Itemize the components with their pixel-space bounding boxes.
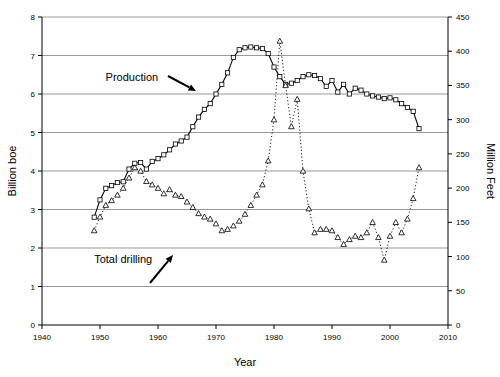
data-point-marker: [110, 184, 114, 188]
data-point-marker: [104, 186, 108, 190]
data-point-marker: [197, 115, 201, 119]
data-point-marker: [342, 82, 346, 86]
data-point-marker: [295, 78, 299, 82]
y-axis-right-tick-label: 400: [456, 47, 470, 56]
x-axis-tick-label: 1960: [149, 333, 167, 342]
x-axis-tick-label: 1990: [323, 333, 341, 342]
y-axis-left-tick-label: 4: [31, 167, 36, 176]
data-point-marker: [278, 75, 282, 79]
y-axis-right-tick-label: 200: [456, 184, 470, 193]
data-point-marker: [388, 96, 392, 100]
data-point-marker: [417, 127, 421, 131]
data-point-marker: [272, 65, 276, 69]
data-point-marker: [214, 92, 218, 96]
data-point-marker: [405, 105, 409, 109]
y-axis-right-tick-label: 0: [456, 321, 461, 330]
data-point-marker: [371, 94, 375, 98]
data-point-marker: [255, 46, 259, 50]
data-point-marker: [208, 102, 212, 106]
chart-background: [0, 0, 500, 377]
data-point-marker: [243, 46, 247, 50]
data-point-marker: [347, 92, 351, 96]
drilling-annotation-label: Total drilling: [94, 253, 152, 265]
data-point-marker: [139, 160, 143, 164]
data-point-marker: [266, 51, 270, 55]
data-point-marker: [98, 198, 102, 202]
x-axis-tick-label: 2000: [381, 333, 399, 342]
data-point-marker: [400, 102, 404, 106]
x-axis-tick-label: 1940: [33, 333, 51, 342]
y-axis-left-tick-label: 0: [31, 321, 36, 330]
data-point-marker: [191, 125, 195, 129]
data-point-marker: [324, 84, 328, 88]
y-axis-left-tick-label: 5: [31, 129, 36, 138]
data-point-marker: [162, 153, 166, 157]
data-point-marker: [301, 75, 305, 79]
y-axis-left-tick-label: 7: [31, 52, 36, 61]
y-axis-left-tick-label: 6: [31, 90, 36, 99]
data-point-marker: [307, 73, 311, 77]
data-point-marker: [411, 109, 415, 113]
y-axis-right-tick-label: 300: [456, 116, 470, 125]
data-point-marker: [185, 135, 189, 139]
data-point-marker: [179, 139, 183, 143]
y-axis-right-tick-label: 250: [456, 150, 470, 159]
data-point-marker: [115, 180, 119, 184]
data-point-marker: [237, 48, 241, 52]
data-point-marker: [202, 107, 206, 111]
y-axis-right-tick-label: 100: [456, 253, 470, 262]
x-axis-tick-label: 1950: [91, 333, 109, 342]
data-point-marker: [168, 148, 172, 152]
data-point-marker: [353, 86, 357, 90]
data-point-marker: [231, 55, 235, 59]
data-point-marker: [226, 71, 230, 75]
data-point-marker: [289, 81, 293, 85]
dual-axis-line-chart: 0123456780501001502002503003504004501940…: [0, 0, 500, 377]
y-axis-right-tick-label: 350: [456, 81, 470, 90]
y-axis-right-title: Million Feet: [485, 143, 497, 199]
data-point-marker: [318, 77, 322, 81]
x-axis-tick-label: 1970: [207, 333, 225, 342]
data-point-marker: [330, 78, 334, 82]
x-axis-tick-label: 1980: [265, 333, 283, 342]
y-axis-left-tick-label: 1: [31, 283, 36, 292]
data-point-marker: [394, 98, 398, 102]
data-point-marker: [121, 180, 125, 184]
x-axis-title: Year: [234, 356, 257, 368]
data-point-marker: [313, 73, 317, 77]
y-axis-left-tick-label: 2: [31, 244, 36, 253]
data-point-marker: [376, 95, 380, 99]
data-point-marker: [144, 167, 148, 171]
chart-container: 0123456780501001502002503003504004501940…: [0, 0, 500, 377]
x-axis-tick-label: 2010: [439, 333, 457, 342]
y-axis-right-tick-label: 50: [456, 287, 465, 296]
data-point-marker: [220, 82, 224, 86]
data-point-marker: [127, 167, 131, 171]
y-axis-right-tick-label: 450: [456, 13, 470, 22]
y-axis-left-tick-label: 3: [31, 206, 36, 215]
data-point-marker: [260, 46, 264, 50]
data-point-marker: [173, 142, 177, 146]
data-point-marker: [359, 88, 363, 92]
data-point-marker: [156, 157, 160, 161]
production-annotation-label: Production: [106, 71, 159, 83]
data-point-marker: [92, 215, 96, 219]
data-point-marker: [150, 159, 154, 163]
y-axis-right-tick-label: 150: [456, 218, 470, 227]
data-point-marker: [382, 97, 386, 101]
data-point-marker: [365, 92, 369, 96]
y-axis-left-title: Billion boe: [6, 146, 18, 197]
data-point-marker: [249, 45, 253, 49]
y-axis-left-tick-label: 8: [31, 13, 36, 22]
data-point-marker: [336, 90, 340, 94]
